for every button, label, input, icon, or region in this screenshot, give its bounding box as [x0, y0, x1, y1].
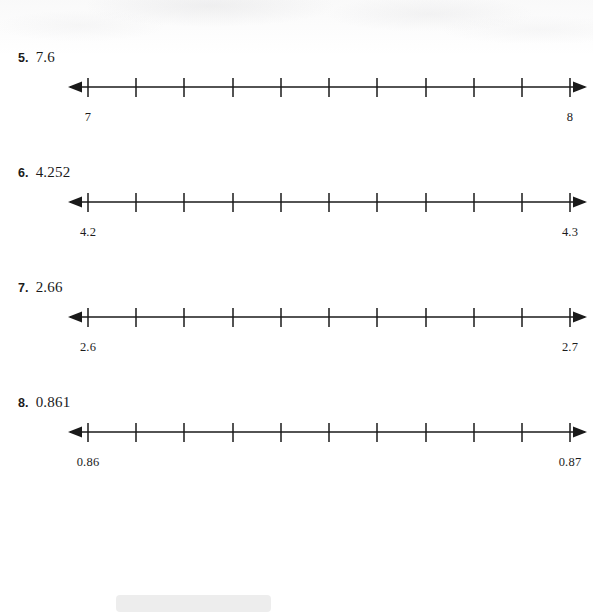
right-arrowhead-icon [573, 82, 587, 93]
left-endpoint-label: 4.2 [80, 225, 96, 240]
problem-number: 8. [18, 396, 29, 410]
problem-number: 7. [18, 281, 29, 295]
left-arrowhead-icon [68, 427, 82, 438]
right-arrowhead-icon [573, 312, 587, 323]
left-endpoint-label: 7 [85, 110, 91, 125]
right-endpoint-label: 8 [567, 110, 573, 125]
number-line: 0.86 0.87 [0, 415, 593, 477]
right-arrowhead-icon [573, 197, 587, 208]
problem-item: 6.4.252 [0, 163, 593, 261]
problem-item: 8.0.861 [0, 393, 593, 491]
left-arrowhead-icon [68, 82, 82, 93]
problem-value: 4.252 [36, 164, 71, 180]
problem-heading: 8.0.861 [18, 393, 70, 413]
left-arrowhead-icon [68, 312, 82, 323]
right-endpoint-label: 0.87 [559, 455, 582, 470]
problem-value: 2.66 [36, 279, 63, 295]
problem-value: 0.861 [36, 394, 71, 410]
left-endpoint-label: 2.6 [80, 340, 96, 355]
problem-heading: 7.2.66 [18, 278, 63, 298]
problem-item: 7.2.66 [0, 278, 593, 376]
right-endpoint-label: 2.7 [562, 340, 578, 355]
left-arrowhead-icon [68, 197, 82, 208]
right-arrowhead-icon [573, 427, 587, 438]
problem-item: 5.7.6 [0, 48, 593, 146]
number-line: 7 8 [0, 70, 593, 132]
problem-value: 7.6 [36, 49, 55, 65]
left-endpoint-label: 0.86 [77, 455, 100, 470]
problem-heading: 6.4.252 [18, 163, 70, 183]
problem-heading: 5.7.6 [18, 48, 55, 68]
problem-number: 5. [18, 51, 29, 65]
right-endpoint-label: 4.3 [562, 225, 578, 240]
bottom-placeholder-bar [116, 595, 271, 612]
number-line: 4.2 4.3 [0, 185, 593, 247]
problem-number: 6. [18, 166, 29, 180]
number-line: 2.6 2.7 [0, 300, 593, 362]
